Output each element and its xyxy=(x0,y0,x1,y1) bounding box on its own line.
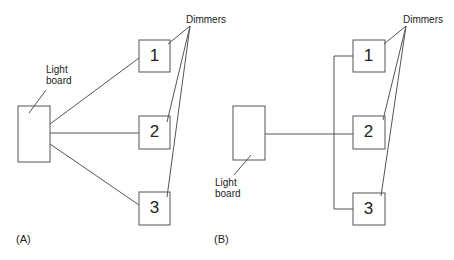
caption-a: (A) xyxy=(16,233,31,245)
dimmer-b-2-number: 2 xyxy=(353,122,384,142)
light-board-b-box xyxy=(233,106,265,160)
dimmer-wiring-diagram: Light board Dimmers 1 2 3 (A) Light boar… xyxy=(0,0,454,260)
light-board-a-label: Light board xyxy=(46,64,72,86)
light-board-a-label-line2: board xyxy=(46,75,72,86)
dimmers-b-label: Dimmers xyxy=(403,14,443,25)
light-board-b-label: Light board xyxy=(215,177,241,199)
dimmer-b-1-number: 1 xyxy=(353,46,384,66)
light-board-a-box xyxy=(18,106,50,162)
dimmer-a-3-number: 3 xyxy=(139,198,170,218)
dimmer-a-1-number: 1 xyxy=(139,46,170,66)
light-board-b-label-line2: board xyxy=(215,188,241,199)
caption-b: (B) xyxy=(214,233,229,245)
light-board-b-label-line1: Light xyxy=(215,177,241,188)
light-board-a-label-line1: Light xyxy=(46,64,72,75)
dimmer-a-2-number: 2 xyxy=(139,122,170,142)
diagram-lines xyxy=(0,0,454,260)
dimmers-a-label: Dimmers xyxy=(186,14,226,25)
dimmer-b-3-number: 3 xyxy=(353,199,384,219)
